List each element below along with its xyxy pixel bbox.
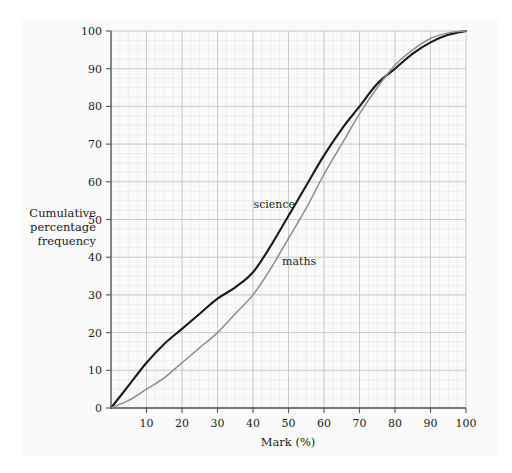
x-tick-label: 40: [246, 417, 260, 430]
x-tick-label: 60: [317, 417, 331, 430]
y-tick-label: 10: [88, 364, 102, 377]
x-axis-title: Mark (%): [261, 435, 316, 449]
y-tick-label: 20: [88, 327, 102, 340]
series-label-maths: maths: [282, 255, 316, 268]
y-tick-label: 90: [88, 63, 102, 76]
x-tick-label: 30: [211, 417, 225, 430]
y-axis-title-line-3: frequency: [38, 234, 97, 248]
y-tick-label: 0: [95, 402, 102, 415]
y-tick-label: 30: [88, 289, 102, 302]
y-tick-label: 100: [81, 25, 102, 38]
x-tick-label: 80: [388, 417, 402, 430]
series-label-science: science: [254, 198, 296, 211]
y-axis-title-line-1: Cumulative: [29, 206, 96, 220]
y-tick-label: 70: [88, 138, 102, 151]
x-tick-label: 50: [282, 417, 296, 430]
x-tick-label: 90: [424, 417, 438, 430]
x-axis-ticks: 102030405060708090100: [140, 408, 477, 430]
y-tick-label: 40: [88, 251, 102, 264]
cumulative-frequency-chart: 0102030405060708090100 10203040506070809…: [0, 0, 512, 473]
x-tick-label: 20: [175, 417, 189, 430]
y-axis-title: Cumulative percentage frequency: [29, 206, 96, 248]
y-tick-label: 80: [88, 100, 102, 113]
x-tick-label: 100: [456, 417, 477, 430]
x-tick-label: 10: [140, 417, 154, 430]
y-tick-label: 60: [88, 176, 102, 189]
y-axis-title-line-2: percentage: [30, 220, 96, 234]
x-tick-label: 70: [353, 417, 367, 430]
